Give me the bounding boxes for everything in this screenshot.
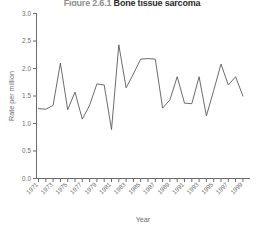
xtick-label-8: 1987	[141, 180, 156, 195]
chart-plot-area: 0.0 0.5 1.0 1.5 2.0 2.5 3.0	[0, 0, 264, 234]
data-series-line	[39, 45, 243, 130]
ytick-label-4: 2.0	[22, 65, 31, 72]
xtick-label-4: 1979	[83, 180, 98, 195]
line-chart-svg: 0.0 0.5 1.0 1.5 2.0 2.5 3.0	[0, 0, 264, 234]
ytick-label-1: 0.5	[22, 147, 31, 154]
xtick-label-0: 1971	[25, 180, 40, 195]
xtick-label-1: 1973	[39, 180, 54, 195]
xtick-label-7: 1985	[127, 180, 142, 195]
ytick-label-3: 1.5	[22, 92, 31, 99]
y-axis-title: Rate per million	[7, 71, 16, 121]
x-axis-title: Year	[136, 215, 151, 224]
y-axis-tick-labels: 0.0 0.5 1.0 1.5 2.0 2.5 3.0	[22, 10, 31, 182]
ytick-label-2: 1.0	[22, 120, 31, 127]
xtick-label-2: 1975	[54, 180, 69, 195]
y-axis-ticks	[33, 14, 37, 179]
ytick-label-6: 3.0	[22, 10, 31, 17]
xtick-label-5: 1981	[98, 180, 113, 195]
xtick-label-6: 1983	[112, 180, 127, 195]
xtick-label-9: 1989	[156, 180, 171, 195]
x-axis-tick-labels: 1971 1973 1975 1977 1979 1981 1983 1985 …	[25, 180, 244, 195]
xtick-label-12: 1995	[200, 180, 215, 195]
xtick-label-10: 1991	[171, 180, 186, 195]
xtick-label-14: 1999	[229, 180, 244, 195]
figure-container: Figure 2.6.1 Bone tissue sarcoma 0.0 0.5	[0, 0, 264, 234]
x-axis-ticks	[39, 179, 243, 183]
ytick-label-0: 0.0	[22, 175, 31, 182]
xtick-label-3: 1977	[68, 180, 83, 195]
xtick-label-13: 1997	[214, 180, 229, 195]
xtick-label-11: 1993	[185, 180, 200, 195]
ytick-label-5: 2.5	[22, 37, 31, 44]
